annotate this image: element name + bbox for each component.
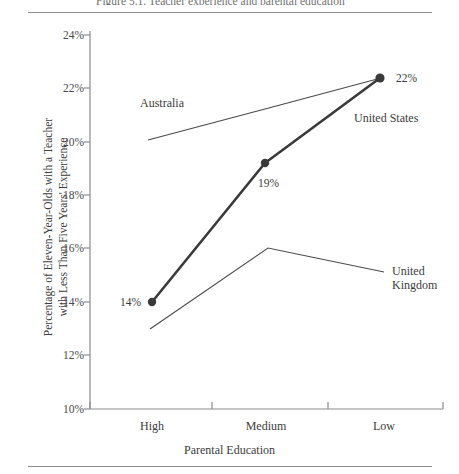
data-label-19-percent: 19%: [258, 177, 279, 189]
series-annotation-uk-line1: United: [392, 264, 425, 278]
data-label-22-percent: 22%: [396, 72, 417, 84]
data-point-us-low: [375, 73, 384, 82]
x-tick-label-high: High: [97, 419, 207, 434]
x-axis-title: Parental Education: [0, 443, 459, 458]
y-tick-marks: [84, 35, 90, 409]
series-annotation-australia: Australia: [140, 96, 184, 110]
figure-container: Figure 5.1. Teacher experience and paren…: [0, 0, 459, 474]
data-label-14-percent: 14%: [120, 296, 141, 308]
x-tick-marks: [90, 402, 443, 409]
x-tick-label-medium: Medium: [211, 419, 321, 434]
plot-area: [0, 0, 459, 474]
series-annotation-uk-line2: Kingdom: [392, 278, 437, 292]
series-line-united-states: [152, 78, 380, 302]
series-annotation-united-kingdom: United Kingdom: [392, 264, 459, 292]
data-point-us-high: [148, 298, 156, 306]
x-tick-label-low: Low: [329, 419, 439, 434]
data-point-us-medium: [261, 159, 269, 167]
series-annotation-united-states: United States: [354, 111, 418, 125]
